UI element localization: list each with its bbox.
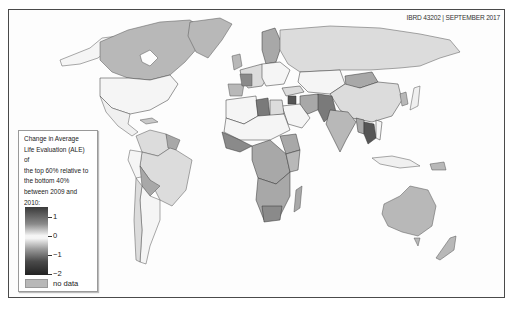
region-egypt bbox=[270, 100, 284, 116]
region-thailand bbox=[364, 122, 376, 144]
region-guianas bbox=[166, 134, 180, 150]
region-vietnam bbox=[376, 120, 382, 140]
legend-tick-0 bbox=[48, 236, 52, 237]
region-south-africa bbox=[262, 206, 282, 222]
legend-tick-1 bbox=[48, 217, 52, 218]
region-greenland bbox=[188, 18, 232, 58]
legend-tick-label-1: 1 bbox=[53, 213, 57, 221]
region-myanmar bbox=[356, 118, 364, 134]
region-uk bbox=[232, 54, 242, 70]
legend-tick-neg2 bbox=[48, 274, 52, 275]
region-scandinavia bbox=[262, 28, 282, 64]
region-india bbox=[326, 110, 356, 152]
legend-tick-label-neg2: −2 bbox=[53, 270, 62, 278]
region-indonesia bbox=[372, 156, 420, 168]
region-iberia bbox=[228, 84, 244, 96]
region-australia bbox=[382, 186, 436, 236]
legend-tick-label-0: 0 bbox=[53, 232, 57, 240]
legend-title: Change in Average Life Evaluation (ALE) … bbox=[24, 134, 90, 208]
region-tasmania bbox=[414, 238, 420, 246]
region-new-zealand bbox=[436, 236, 456, 260]
region-russia bbox=[280, 26, 460, 72]
legend-no-data-swatch bbox=[25, 279, 48, 288]
region-argentina bbox=[140, 186, 160, 264]
region-france bbox=[240, 74, 252, 86]
region-chile bbox=[134, 178, 142, 262]
legend-tick-label-neg1: −1 bbox=[53, 251, 62, 259]
region-korea bbox=[400, 92, 408, 106]
region-syria bbox=[288, 96, 296, 104]
map-legend: Change in Average Life Evaluation (ALE) … bbox=[18, 130, 98, 292]
region-png bbox=[430, 162, 446, 170]
region-eastern-europe bbox=[262, 62, 290, 86]
region-japan bbox=[410, 86, 420, 110]
legend-color-ramp bbox=[25, 207, 48, 275]
legend-tick-neg1 bbox=[48, 255, 52, 256]
region-turkey bbox=[282, 86, 304, 96]
legend-no-data-label: no data bbox=[53, 279, 78, 288]
map-credit: IBRD 43202 | SEPTEMBER 2017 bbox=[406, 13, 500, 22]
region-madagascar bbox=[294, 186, 302, 212]
